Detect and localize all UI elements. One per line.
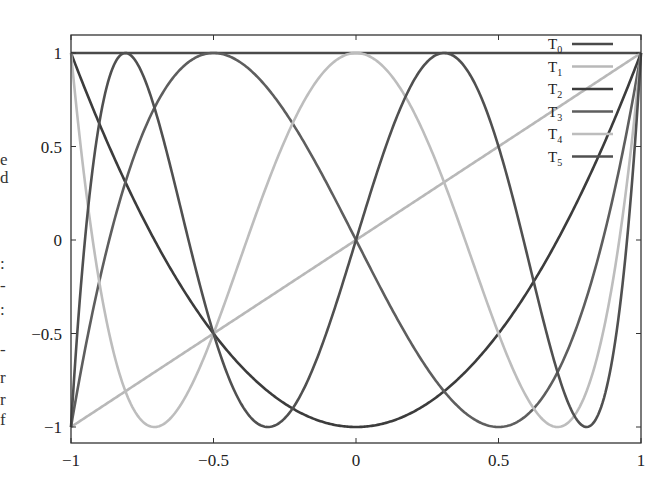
x-tick-label: 0.5 [488,451,509,470]
legend-label: T5 [548,149,562,168]
y-tick-label: −0.5 [31,325,62,344]
x-tick-label: −0.5 [198,451,229,470]
y-tick-label: −1 [44,418,62,437]
x-tick-label: 0 [352,451,361,470]
chebyshev-chart: −1−1−0.5−0.5000.50.511 T0T1T2T3T4T5 [0,0,669,500]
x-tick-label: −1 [62,451,80,470]
y-tick-label: 0 [54,231,63,250]
legend-label: T1 [548,59,562,78]
y-tick-label: 1 [54,44,63,63]
x-tick-label: 1 [637,451,646,470]
legend-label: T2 [548,81,562,100]
legend-label: T4 [548,126,562,145]
y-tick-label: 0.5 [41,138,62,157]
